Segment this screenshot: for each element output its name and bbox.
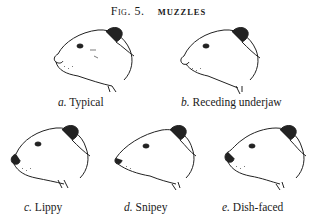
figure-number: Fig. 5. [111,4,145,18]
figure-title: Fig. 5. MUZZLES [0,4,317,19]
dog-head-illustration-snipey [112,122,202,194]
caption-c: c. Lippy [24,201,62,213]
caption-a: a. Typical [58,96,104,108]
dog-head-illustration-lippy [6,122,96,194]
dog-head-illustration-dish-faced [222,122,312,194]
dog-head-illustration-receding-underjaw [176,24,266,96]
caption-e: e. Dish-faced [222,201,283,213]
dog-head-illustration-typical [50,24,140,96]
figure-subject: MUZZLES [158,7,207,17]
caption-d: d. Snipey [124,201,167,213]
caption-b: b. Receding underjaw [181,96,282,108]
